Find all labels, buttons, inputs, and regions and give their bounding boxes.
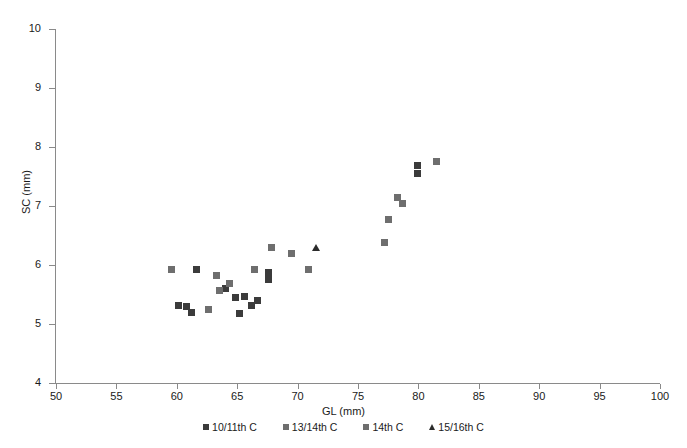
y-tick-mark bbox=[49, 147, 55, 148]
y-tick-label: 4 bbox=[15, 377, 41, 388]
plot-area bbox=[56, 29, 660, 383]
data-point bbox=[381, 239, 388, 246]
data-point bbox=[188, 309, 195, 316]
x-tick-label: 90 bbox=[519, 391, 559, 402]
y-axis-title: SC (mm) bbox=[20, 132, 32, 252]
legend-square-icon bbox=[203, 424, 209, 430]
y-tick-label: 6 bbox=[15, 259, 41, 270]
x-tick-mark bbox=[600, 384, 601, 389]
data-point bbox=[268, 244, 275, 251]
legend-entry: 13/14th C bbox=[283, 421, 338, 433]
data-point bbox=[288, 250, 295, 257]
legend-square-icon bbox=[283, 424, 289, 430]
x-tick-label: 80 bbox=[398, 391, 438, 402]
legend-triangle-icon bbox=[429, 424, 435, 430]
data-point bbox=[265, 276, 272, 283]
data-point bbox=[236, 310, 243, 317]
x-tick-label: 65 bbox=[217, 391, 257, 402]
data-point bbox=[254, 297, 261, 304]
y-tick-mark bbox=[49, 206, 55, 207]
x-tick-mark bbox=[298, 384, 299, 389]
legend-square-icon bbox=[363, 424, 369, 430]
x-tick-mark bbox=[177, 384, 178, 389]
data-point bbox=[399, 200, 406, 207]
y-tick-label: 9 bbox=[15, 82, 41, 93]
data-point bbox=[205, 306, 212, 313]
data-point bbox=[312, 244, 320, 251]
data-point bbox=[213, 272, 220, 279]
legend-label: 14th C bbox=[372, 421, 403, 433]
data-point bbox=[226, 280, 233, 287]
y-tick-mark bbox=[49, 88, 55, 89]
legend-label: 10/11th C bbox=[212, 421, 257, 433]
data-point bbox=[265, 269, 272, 276]
x-tick-label: 55 bbox=[96, 391, 136, 402]
data-point bbox=[168, 266, 175, 273]
legend-entry: 10/11th C bbox=[203, 421, 257, 433]
legend-label: 15/16th C bbox=[438, 421, 484, 433]
x-tick-label: 85 bbox=[459, 391, 499, 402]
data-point bbox=[414, 170, 421, 177]
data-point bbox=[433, 158, 440, 165]
x-tick-mark bbox=[116, 384, 117, 389]
data-point bbox=[251, 266, 258, 273]
x-tick-mark bbox=[56, 384, 57, 389]
y-tick-mark bbox=[49, 383, 55, 384]
data-point bbox=[305, 266, 312, 273]
legend-entry: 14th C bbox=[363, 421, 403, 433]
x-tick-mark bbox=[539, 384, 540, 389]
x-tick-label: 75 bbox=[338, 391, 378, 402]
y-tick-label: 10 bbox=[15, 23, 41, 34]
x-tick-label: 100 bbox=[640, 391, 680, 402]
data-point bbox=[175, 302, 182, 309]
x-tick-label: 50 bbox=[36, 391, 76, 402]
y-tick-mark bbox=[49, 324, 55, 325]
x-tick-mark bbox=[660, 384, 661, 389]
legend-label: 13/14th C bbox=[292, 421, 338, 433]
data-point bbox=[232, 294, 239, 301]
x-tick-label: 70 bbox=[278, 391, 318, 402]
x-tick-mark bbox=[358, 384, 359, 389]
y-tick-label: 5 bbox=[15, 318, 41, 329]
x-axis-title: GL (mm) bbox=[0, 405, 687, 417]
y-tick-mark bbox=[49, 29, 55, 30]
data-point bbox=[193, 266, 200, 273]
chart-legend: 10/11th C13/14th C14th C15/16th C bbox=[0, 421, 687, 433]
data-point bbox=[216, 287, 223, 294]
x-tick-mark bbox=[418, 384, 419, 389]
scatter-chart: 45678910 50556065707580859095100 SC (mm)… bbox=[0, 0, 687, 448]
x-tick-mark bbox=[479, 384, 480, 389]
x-tick-label: 60 bbox=[157, 391, 197, 402]
data-point bbox=[385, 216, 392, 223]
data-point bbox=[414, 162, 421, 169]
legend-entry: 15/16th C bbox=[429, 421, 484, 433]
data-point bbox=[241, 293, 248, 300]
x-tick-mark bbox=[237, 384, 238, 389]
x-tick-label: 95 bbox=[580, 391, 620, 402]
y-tick-mark bbox=[49, 265, 55, 266]
